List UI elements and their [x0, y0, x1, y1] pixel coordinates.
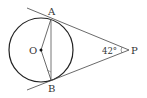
label-p: P	[131, 45, 138, 56]
tangent-pa	[27, 8, 129, 50]
label-a: A	[47, 6, 56, 17]
geometry-diagram: A B O P 42°	[0, 0, 147, 98]
label-b: B	[48, 83, 55, 94]
tangent-pb	[27, 50, 129, 90]
label-o: O	[29, 45, 37, 56]
center-dot	[40, 49, 43, 52]
angle-arc-p	[121, 47, 122, 53]
radius-oa	[41, 19, 51, 50]
radius-ob	[41, 50, 51, 80]
angle-label-p: 42°	[102, 46, 117, 56]
